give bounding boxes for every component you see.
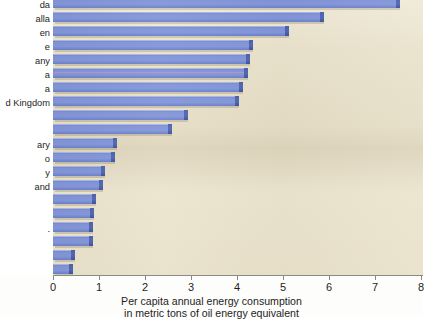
x-tick-label: 2: [142, 281, 148, 293]
bar-shadow: [55, 204, 96, 206]
x-tick: [99, 275, 100, 280]
bar-row: [53, 264, 73, 274]
bar: [53, 194, 92, 204]
bar-shadow: [55, 246, 93, 248]
bar-shadow: [55, 232, 93, 234]
bar-row: [53, 82, 243, 92]
x-tick-label: 7: [372, 281, 378, 293]
bar-end-face: [396, 0, 400, 8]
bar-end-face: [99, 180, 103, 190]
x-axis-line: [53, 275, 423, 276]
bar-shadow: [55, 64, 250, 66]
bar-shadow: [55, 260, 75, 262]
bar-end-face: [113, 138, 117, 148]
category-label: .: [47, 225, 50, 234]
x-tick: [53, 275, 54, 280]
bar-row: [53, 124, 172, 134]
bar-end-face: [111, 152, 115, 162]
bar-row: [53, 222, 93, 232]
bar-row: [53, 96, 239, 106]
category-label: e: [45, 43, 50, 52]
bar-shadow: [55, 8, 400, 10]
bar-end-face: [235, 96, 239, 106]
bar-shadow: [55, 176, 105, 178]
bar: [53, 222, 89, 232]
x-tick: [191, 275, 192, 280]
bar-end-face: [101, 166, 105, 176]
bar: [53, 40, 249, 50]
bar-shadow: [55, 36, 289, 38]
x-tick: [375, 275, 376, 280]
bar: [53, 96, 235, 106]
bar-row: [53, 250, 75, 260]
caption-line-2: in metric tons of oil energy equivalent: [0, 308, 423, 319]
x-tick-label: 4: [234, 281, 240, 293]
x-tick: [329, 275, 330, 280]
category-label: a: [45, 71, 50, 80]
category-label: alla: [36, 15, 50, 24]
plot-area: [53, 0, 423, 275]
bar: [53, 264, 69, 274]
bar-shadow: [55, 190, 103, 192]
bar-shadow: [55, 148, 117, 150]
bar: [53, 68, 244, 78]
category-label: en: [40, 29, 50, 38]
bar: [53, 82, 239, 92]
bar-shadow: [55, 78, 248, 80]
bar-row: [53, 152, 115, 162]
bar-shadow: [55, 162, 115, 164]
bar-row: [53, 110, 188, 120]
bar: [53, 250, 71, 260]
chart-caption: Per capita annual energy consumption in …: [0, 296, 423, 319]
caption-line-1: Per capita annual energy consumption: [0, 296, 423, 308]
bar-row: [53, 54, 250, 64]
x-tick: [145, 275, 146, 280]
bar-shadow: [55, 92, 243, 94]
bar-shadow: [55, 50, 253, 52]
bar-end-face: [71, 250, 75, 260]
category-label: any: [35, 57, 50, 66]
x-tick-label: 3: [188, 281, 194, 293]
x-tick-label: 1: [96, 281, 102, 293]
x-tick-label: 0: [50, 281, 56, 293]
bar-end-face: [246, 54, 250, 64]
bar-row: [53, 194, 96, 204]
bar-end-face: [244, 68, 248, 78]
category-label: da: [40, 1, 50, 10]
category-label: y: [45, 169, 50, 178]
bar-row: [53, 138, 117, 148]
bar-end-face: [89, 222, 93, 232]
category-label: a: [45, 85, 50, 94]
bar-shadow: [55, 120, 188, 122]
bar-row: [53, 166, 105, 176]
bar-row: [53, 236, 93, 246]
bar: [53, 236, 89, 246]
bar-row: [53, 68, 248, 78]
category-label: d Kingdom: [6, 99, 50, 108]
bar: [53, 0, 396, 8]
bar-end-face: [285, 26, 289, 36]
x-tick: [283, 275, 284, 280]
bar-end-face: [249, 40, 253, 50]
category-label: and: [34, 183, 50, 192]
bar: [53, 54, 246, 64]
bar-shadow: [55, 218, 94, 220]
bar: [53, 152, 111, 162]
bar-end-face: [239, 82, 243, 92]
x-tick: [237, 275, 238, 280]
bar-end-face: [184, 110, 188, 120]
bar: [53, 138, 113, 148]
bar-row: [53, 180, 103, 190]
bar-end-face: [69, 264, 73, 274]
bar-row: [53, 40, 253, 50]
bar-shadow: [55, 106, 239, 108]
bar: [53, 110, 184, 120]
category-label: o: [45, 155, 50, 164]
x-tick-label: 6: [326, 281, 332, 293]
bar-row: [53, 26, 289, 36]
bar-shadow: [55, 22, 324, 24]
bar-shadow: [55, 134, 172, 136]
bar: [53, 166, 101, 176]
bar-end-face: [320, 12, 324, 22]
